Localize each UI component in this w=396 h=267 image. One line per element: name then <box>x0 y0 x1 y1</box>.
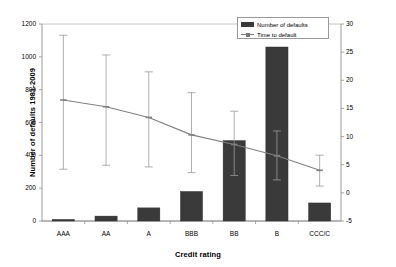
y-tick-label-right-3: 10 <box>346 133 353 140</box>
bar-aaa <box>52 219 74 221</box>
y-tick-label-right-0: -5 <box>346 217 352 224</box>
chart-container: Number of defaults 1981-2009 Time to def… <box>0 0 396 267</box>
y-tick-label-left-2: 400 <box>0 151 36 158</box>
legend-label-defaults: Number of defaults <box>257 21 308 29</box>
y-tick-label-left-3: 600 <box>0 119 36 126</box>
chart-legend: Number of defaults Time to default <box>237 17 329 39</box>
y-tick-label-right-4: 15 <box>346 104 353 111</box>
legend-item-defaults: Number of defaults <box>241 20 325 29</box>
bar-swatch-icon <box>241 22 254 27</box>
chart-plot-area <box>0 0 396 267</box>
y-tick-label-right-7: 30 <box>346 20 353 27</box>
bar-bbb <box>180 191 202 221</box>
line-swatch-icon <box>241 32 254 37</box>
y-tick-label-right-6: 25 <box>346 48 353 55</box>
bar-aa <box>95 216 117 221</box>
y-tick-label-left-1: 200 <box>0 184 36 191</box>
x-category-label-ccc-c: CCC/C <box>294 230 346 237</box>
y-tick-label-right-2: 5 <box>346 161 350 168</box>
y-tick-label-left-6: 1200 <box>0 20 36 27</box>
y-tick-label-left-4: 800 <box>0 86 36 93</box>
y-tick-label-right-1: 0 <box>346 189 350 196</box>
legend-label-time-to-default: Time to default <box>257 31 296 39</box>
x-axis-label: Credit rating <box>0 250 396 259</box>
bar-a <box>138 208 160 221</box>
y-tick-label-right-5: 20 <box>346 76 353 83</box>
y-tick-label-left-0: 0 <box>0 217 36 224</box>
legend-item-time-to-default: Time to default <box>241 30 325 39</box>
bar-ccc-c <box>309 203 331 221</box>
y-tick-label-left-5: 1000 <box>0 53 36 60</box>
